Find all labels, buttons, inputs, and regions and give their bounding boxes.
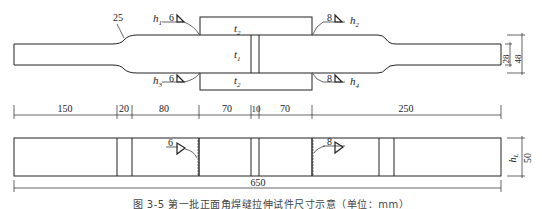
side-weld-right-size: 8 <box>327 136 332 147</box>
height-value: 50 <box>522 153 533 163</box>
dim-segment-3: 80 <box>159 103 169 114</box>
dim-segment-4: 70 <box>222 103 232 114</box>
figure-caption: 图 3-5 第一批正面角焊缝拉伸试件尺寸示意（单位：mm） <box>0 196 542 209</box>
total-length-label: 650 <box>251 177 266 188</box>
bottom-cover-plate <box>200 73 312 90</box>
right-plate-outline <box>312 35 501 73</box>
weld-size-h1: 6 <box>169 12 174 23</box>
weld-symbol-h1 <box>162 15 199 34</box>
side-view-outline <box>14 138 501 176</box>
radius-label: 25 <box>113 12 123 23</box>
dim-segment-2: 20 <box>119 103 129 114</box>
weld-label-h3: h3 <box>153 74 163 89</box>
dim-segment-1: 150 <box>58 103 73 114</box>
main-plate-label: t1 <box>234 48 241 63</box>
side-weld-left-size: 6 <box>168 137 173 148</box>
dim-segment-6: 70 <box>280 103 290 114</box>
weld-symbol-h3 <box>162 74 199 82</box>
weld-size-h2: 8 <box>327 12 332 23</box>
dim-segment-5: 10 <box>252 104 262 114</box>
weld-label-h4: h4 <box>350 75 360 90</box>
width-narrow-label: 28 <box>501 54 511 64</box>
cover-plate-bottom-label: t2 <box>234 74 241 89</box>
top-cover-plate <box>200 17 312 35</box>
weld-label-h2: h2 <box>350 14 360 29</box>
width-dimension <box>505 33 525 75</box>
specimen-drawing: 25 h1 6 h3 6 8 h2 8 h4 t2 t1 t2 28 48 15… <box>0 0 542 209</box>
weld-size-h3: 6 <box>169 73 174 84</box>
height-label: hL <box>507 153 520 162</box>
weld-label-h1: h1 <box>153 12 162 27</box>
width-wide-label: 48 <box>513 54 523 64</box>
left-plate-outline <box>14 35 200 73</box>
weld-size-h4: 8 <box>327 73 332 84</box>
radius-leader <box>117 24 124 38</box>
dim-segment-7: 250 <box>399 103 414 114</box>
